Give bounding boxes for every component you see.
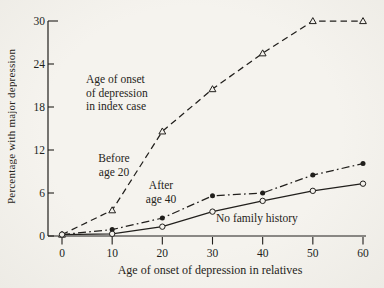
x-axis-label: Age of onset of depression in relatives <box>48 263 372 278</box>
chart-canvas: 06121824300102030405060 <box>0 0 384 288</box>
annotation-after-age-40: After age 40 <box>137 179 185 206</box>
marker-filled-circle <box>160 216 165 221</box>
x-tick-label: 0 <box>59 247 65 259</box>
x-tick-label: 20 <box>157 247 169 259</box>
marker-open-triangle <box>259 50 266 56</box>
marker-open-triangle <box>109 207 116 213</box>
y-tick-label: 30 <box>34 15 46 27</box>
marker-open-circle <box>310 188 315 193</box>
marker-filled-circle <box>310 173 315 178</box>
marker-open-circle <box>59 232 64 237</box>
marker-open-circle <box>260 198 265 203</box>
marker-open-circle <box>109 231 114 236</box>
depression-onset-figure: 06121824300102030405060 Percentage with … <box>0 0 384 288</box>
x-tick-label: 30 <box>207 247 219 259</box>
annotation-no-family-history: No family history <box>216 212 298 226</box>
series-line-0 <box>62 21 363 235</box>
marker-filled-circle <box>210 193 215 198</box>
y-tick-label: 0 <box>39 230 45 242</box>
x-tick-label: 60 <box>357 247 369 259</box>
marker-filled-circle <box>260 191 265 196</box>
y-axis-label: Percentage with major depression <box>3 0 19 252</box>
x-tick-label: 50 <box>307 247 319 259</box>
marker-open-triangle <box>209 86 216 92</box>
annotation-before-age-20: Before age 20 <box>91 152 137 179</box>
marker-open-triangle <box>360 18 367 24</box>
x-tick-label: 40 <box>257 247 269 259</box>
y-tick-label: 24 <box>34 58 46 70</box>
marker-filled-circle <box>361 161 366 166</box>
y-tick-label: 18 <box>34 101 46 113</box>
y-tick-label: 12 <box>34 144 46 156</box>
marker-open-circle <box>160 224 165 229</box>
x-tick-label: 10 <box>106 247 118 259</box>
y-tick-label: 6 <box>39 187 45 199</box>
marker-open-circle <box>210 209 215 214</box>
marker-open-circle <box>360 181 365 186</box>
annotation-index-case: Age of onset of depression in index case <box>86 73 148 114</box>
marker-open-triangle <box>309 18 316 24</box>
